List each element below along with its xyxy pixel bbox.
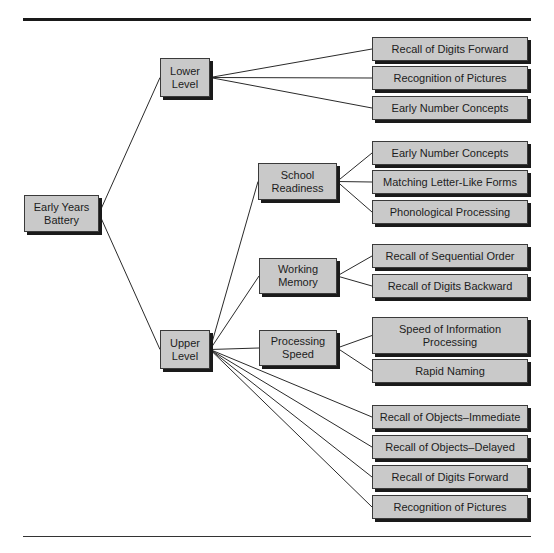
leaf-early-number-concepts: Early Number Concepts (372, 96, 528, 120)
node-upper-level: Upper Level (160, 330, 210, 369)
node-lower-level: Lower Level (160, 58, 210, 97)
connector-root-lower (99, 78, 160, 214)
connector-lower-l3 (210, 78, 372, 109)
connector-speed-l9 (337, 336, 372, 349)
connector-upper-school (210, 182, 258, 350)
connector-working-l7 (337, 256, 372, 276)
node-early-years-battery: Early Years Battery (24, 195, 99, 232)
leaf-recall-of-digits-forward: Recall of Digits Forward (372, 465, 528, 489)
connector-upper-l14 (210, 350, 372, 508)
connector-school-l4 (337, 153, 372, 182)
leaf-recall-of-digits-backward: Recall of Digits Backward (372, 274, 528, 298)
connector-school-l5 (337, 182, 372, 183)
leaf-recall-of-digits-forward: Recall of Digits Forward (372, 37, 528, 61)
connector-root-upper (99, 214, 160, 350)
connector-lower-l1 (210, 49, 372, 78)
connector-upper-working (210, 276, 259, 350)
leaf-speed-of-information-processing: Speed of Information Processing (372, 317, 528, 354)
leaf-rapid-naming: Rapid Naming (372, 359, 528, 383)
connector-school-l6 (337, 182, 372, 213)
leaf-recognition-of-pictures: Recognition of Pictures (372, 495, 528, 519)
connector-upper-l13 (210, 350, 372, 478)
connector-speed-l10 (337, 348, 372, 371)
leaf-matching-letter-like-forms: Matching Letter-Like Forms (372, 170, 528, 194)
connector-lower-l2 (210, 78, 372, 79)
leaf-recognition-of-pictures: Recognition of Pictures (372, 66, 528, 90)
leaf-phonological-processing: Phonological Processing (372, 200, 528, 224)
leaf-early-number-concepts: Early Number Concepts (372, 141, 528, 165)
leaf-recall-of-objects-delayed: Recall of Objects–Delayed (372, 435, 528, 459)
leaf-recall-of-sequential-order: Recall of Sequential Order (372, 244, 528, 268)
node-working-memory: Working Memory (259, 258, 337, 294)
connector-upper-speed (210, 348, 259, 350)
node-processing-speed: Processing Speed (259, 330, 337, 366)
node-school-readiness: School Readiness (258, 163, 337, 200)
leaf-recall-of-objects-immediate: Recall of Objects–Immediate (372, 405, 528, 429)
connector-working-l8 (337, 276, 372, 286)
